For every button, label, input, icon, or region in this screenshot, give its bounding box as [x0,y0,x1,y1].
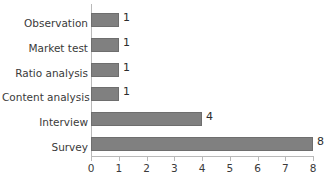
x-tick-mark [230,157,231,161]
x-tick-mark [313,157,314,161]
category-label-survey: Survey [2,138,88,156]
x-tick-label-7: 7 [278,162,292,175]
category-label-market-test: Market test [2,39,88,57]
x-tick-label-6: 6 [251,162,265,175]
bar-value-observation: 1 [123,11,130,25]
x-tick-mark [202,157,203,161]
bar-market-test [91,38,119,52]
x-tick-label-3: 3 [167,162,181,175]
x-tick-label-5: 5 [223,162,237,175]
bar-value-market-test: 1 [123,36,130,50]
bar-chart: Observation Market test Ratio analysis C… [0,0,334,187]
x-tick-label-4: 4 [195,162,209,175]
bar-content-analysis [91,87,119,101]
x-tick-mark [258,157,259,161]
bar-value-content-analysis: 1 [123,85,130,99]
category-label-row: Survey [0,136,88,161]
plot-area: 1 1 1 1 4 8 0 1 [91,0,313,156]
bar-row: 8 [91,132,313,157]
bar-ratio-analysis [91,63,119,77]
x-tick-label-8: 8 [306,162,320,175]
x-tick-mark [174,157,175,161]
category-label-row: Observation [0,12,88,37]
x-tick-label-2: 2 [140,162,154,175]
x-tick-label-1: 1 [112,162,126,175]
x-tick-mark [91,157,92,161]
x-tick-mark [119,157,120,161]
bar-value-ratio-analysis: 1 [123,61,130,75]
category-label-interview: Interview [2,113,88,131]
bar-survey [91,137,313,151]
category-label-row: Content analysis [0,86,88,111]
category-label-ratio-analysis: Ratio analysis [2,64,88,82]
category-label-observation: Observation [2,14,88,32]
bar-interview [91,112,202,126]
bar-row: 4 [91,107,313,132]
bar-row: 1 [91,58,313,83]
category-label-content-analysis: Content analysis [2,88,88,106]
category-label-row: Interview [0,111,88,136]
bar-row: 1 [91,8,313,33]
x-tick-label-0: 0 [84,162,98,175]
bar-value-interview: 4 [206,110,213,124]
bar-row: 1 [91,33,313,58]
bar-observation [91,13,119,27]
category-label-row: Market test [0,37,88,62]
x-tick-mark [147,157,148,161]
bar-value-survey: 8 [317,135,324,149]
category-label-row: Ratio analysis [0,62,88,87]
bar-row: 1 [91,82,313,107]
x-tick-mark [285,157,286,161]
